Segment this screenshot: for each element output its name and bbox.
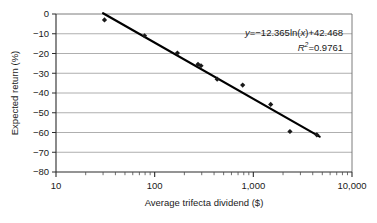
x-axis-title: Average trifecta dividend ($) (145, 197, 264, 208)
y-tick-label-minus70: −70 (33, 147, 49, 158)
x-tick-label-10: 10 (51, 180, 62, 191)
y-tick-label-0: 0 (44, 8, 49, 19)
y-tick-label-minus10: −10 (33, 28, 49, 39)
equation-body: =−12.365ln( (250, 27, 302, 38)
y-tick-label-minus30: −30 (33, 68, 49, 79)
x-tick-label-1000: 1,000 (241, 180, 265, 191)
y-tick-label-minus40: −40 (33, 87, 49, 98)
equation-text: y=−12.365ln(x)+42.468 (244, 27, 343, 38)
y-axis-ticks (52, 14, 56, 172)
scatter-chart: 0 −10 −20 −30 −40 −50 −60 −70 −80 10 100… (0, 0, 377, 223)
r-value: =0.9761 (308, 42, 343, 53)
y-tick-label-minus20: −20 (33, 48, 49, 59)
x-axis-tick-labels: 10 100 1,000 10,000 (51, 180, 367, 191)
y-axis-tick-labels: 0 −10 −20 −30 −40 −50 −60 −70 −80 (33, 8, 49, 177)
y-tick-label-minus50: −50 (33, 107, 49, 118)
x-tick-label-10000: 10,000 (337, 180, 366, 191)
y-tick-label-minus80: −80 (33, 166, 49, 177)
x-axis-major-ticks (56, 172, 352, 177)
y-axis-title: Expected return (%) (9, 51, 20, 135)
chart-figure: 0 −10 −20 −30 −40 −50 −60 −70 −80 10 100… (0, 0, 377, 223)
equation-tail: )+42.468 (305, 27, 343, 38)
r-squared-text: R2=0.9761 (298, 41, 343, 53)
y-tick-label-minus60: −60 (33, 127, 49, 138)
x-tick-label-100: 100 (147, 180, 163, 191)
